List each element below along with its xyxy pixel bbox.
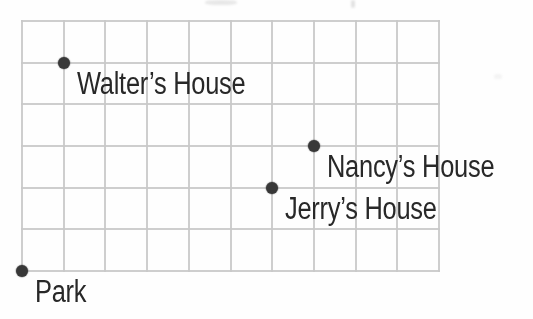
- scan-artifact: [494, 74, 502, 79]
- grid: Walter’s HouseNancy’s HouseJerry’s House…: [0, 0, 533, 319]
- point-label: Jerry’s House: [285, 193, 437, 224]
- grid-line-horizontal: [21, 187, 440, 189]
- data-point-dot: [308, 140, 320, 152]
- data-point-dot: [58, 57, 70, 69]
- data-point-dot: [16, 265, 28, 277]
- scan-artifact: [205, 0, 237, 5]
- scan-artifact: [351, 0, 355, 8]
- grid-line-horizontal: [21, 20, 440, 22]
- grid-line-horizontal: [21, 270, 440, 272]
- point-label: Nancy’s House: [327, 151, 494, 182]
- data-point-dot: [266, 182, 278, 194]
- point-label: Walter’s House: [77, 68, 245, 99]
- grid-line-horizontal: [21, 145, 440, 147]
- point-label: Park: [35, 276, 86, 307]
- grid-line-horizontal: [21, 103, 440, 105]
- grid-line-horizontal: [21, 228, 440, 230]
- figure: Walter’s HouseNancy’s HouseJerry’s House…: [0, 0, 533, 319]
- grid-line-horizontal: [21, 62, 440, 64]
